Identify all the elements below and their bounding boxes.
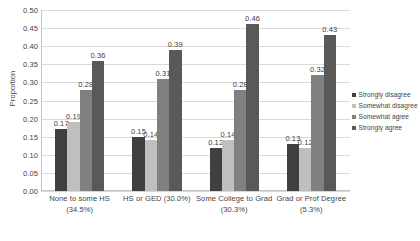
x-label-line2: (30.3%) — [196, 205, 273, 216]
bar[interactable]: 0.14 — [145, 140, 157, 191]
bar-slot: 0.13 — [287, 10, 299, 191]
bar-group: 0.150.140.310.39 — [118, 10, 195, 191]
bar[interactable]: 0.39 — [169, 50, 181, 191]
bar-group: 0.130.120.320.43 — [273, 10, 350, 191]
bar[interactable]: 0.15 — [132, 137, 144, 191]
x-label-line2: (34.5%) — [41, 205, 118, 216]
x-axis-category-label: Some College to Grad(30.3%) — [196, 194, 273, 215]
bar[interactable]: 0.12 — [299, 148, 311, 191]
bar-value-label: 0.46 — [245, 14, 260, 23]
gridline — [41, 191, 350, 192]
legend-label: Somewhat disagree — [359, 102, 418, 109]
y-axis-tick: 0.10 — [23, 150, 38, 159]
plot-area: 0.170.190.280.360.150.140.310.390.120.14… — [41, 10, 350, 191]
legend-swatch-icon — [352, 93, 356, 97]
legend: Strongly disagreeSomewhat disagreeSomewh… — [352, 89, 420, 133]
y-axis-tick: 0.45 — [23, 24, 38, 33]
bar-slot: 0.28 — [80, 10, 92, 191]
bar-slot: 0.19 — [67, 10, 79, 191]
y-axis-tick: 0.05 — [23, 168, 38, 177]
bar[interactable]: 0.28 — [234, 90, 246, 191]
x-axis-category-label: HS or GED (30.0%) — [118, 194, 195, 215]
bar[interactable]: 0.46 — [246, 24, 258, 191]
bar-slot: 0.32 — [311, 10, 323, 191]
bar-value-label: 0.36 — [91, 51, 106, 60]
bar-slot: 0.39 — [169, 10, 181, 191]
y-axis-tick: 0.15 — [23, 132, 38, 141]
bar[interactable]: 0.19 — [67, 122, 79, 191]
legend-label: Strongly agree — [359, 124, 403, 131]
x-label-line1: Some College to Grad — [196, 194, 272, 203]
legend-item[interactable]: Strongly agree — [352, 122, 420, 133]
legend-item[interactable]: Somewhat agree — [352, 111, 420, 122]
legend-swatch-icon — [352, 126, 356, 130]
x-label-line1: HS or GED (30.0%) — [123, 194, 191, 203]
bar[interactable]: 0.12 — [210, 148, 222, 191]
y-axis-tick: 0.40 — [23, 42, 38, 51]
bar[interactable]: 0.17 — [55, 129, 67, 191]
legend-label: Strongly disagree — [359, 91, 411, 98]
bar[interactable]: 0.14 — [222, 140, 234, 191]
bar[interactable]: 0.43 — [324, 35, 336, 191]
x-label-line1: Grad or Prof Degree — [276, 194, 346, 203]
bar-slot: 0.17 — [55, 10, 67, 191]
bar[interactable]: 0.28 — [80, 90, 92, 191]
legend-item[interactable]: Strongly disagree — [352, 89, 420, 100]
bar-slot: 0.12 — [210, 10, 222, 191]
y-axis-tick: 0.00 — [23, 187, 38, 196]
x-axis-category-label: None to some HS(34.5%) — [41, 194, 118, 215]
y-axis-tick: 0.35 — [23, 60, 38, 69]
bar-slot: 0.46 — [246, 10, 258, 191]
bar-slot: 0.14 — [222, 10, 234, 191]
y-axis-tick: 0.30 — [23, 78, 38, 87]
legend-label: Somewhat agree — [359, 113, 410, 120]
bar-slot: 0.15 — [132, 10, 144, 191]
bar-slot: 0.12 — [299, 10, 311, 191]
legend-item[interactable]: Somewhat disagree — [352, 100, 420, 111]
bar-groups: 0.170.190.280.360.150.140.310.390.120.14… — [41, 10, 350, 191]
legend-swatch-icon — [352, 115, 356, 119]
x-axis-category-label: Grad or Prof Degree(5.3%) — [273, 194, 350, 215]
bar-slot: 0.43 — [324, 10, 336, 191]
bar-slot: 0.31 — [157, 10, 169, 191]
y-axis-tick: 0.25 — [23, 96, 38, 105]
legend-swatch-icon — [352, 104, 356, 108]
bar[interactable]: 0.31 — [157, 79, 169, 191]
y-axis-tick: 0.20 — [23, 114, 38, 123]
y-axis-tick-labels: 0.500.450.400.350.300.250.200.150.100.05… — [10, 10, 38, 191]
y-axis-tick: 0.50 — [23, 6, 38, 15]
bar-value-label: 0.43 — [322, 25, 337, 34]
x-axis-category-labels: None to some HS(34.5%)HS or GED (30.0%)S… — [41, 194, 350, 215]
bar-group: 0.170.190.280.36 — [41, 10, 118, 191]
bar-chart: Proportion 0.500.450.400.350.300.250.200… — [0, 0, 420, 241]
bar[interactable]: 0.32 — [311, 75, 323, 191]
bar[interactable]: 0.13 — [287, 144, 299, 191]
bar[interactable]: 0.36 — [92, 61, 104, 191]
bar-slot: 0.14 — [145, 10, 157, 191]
x-label-line1: None to some HS — [49, 194, 110, 203]
bar-group: 0.120.140.280.46 — [196, 10, 273, 191]
bar-slot: 0.28 — [234, 10, 246, 191]
x-label-line2: (5.3%) — [273, 205, 350, 216]
bar-slot: 0.36 — [92, 10, 104, 191]
bar-value-label: 0.39 — [168, 40, 183, 49]
